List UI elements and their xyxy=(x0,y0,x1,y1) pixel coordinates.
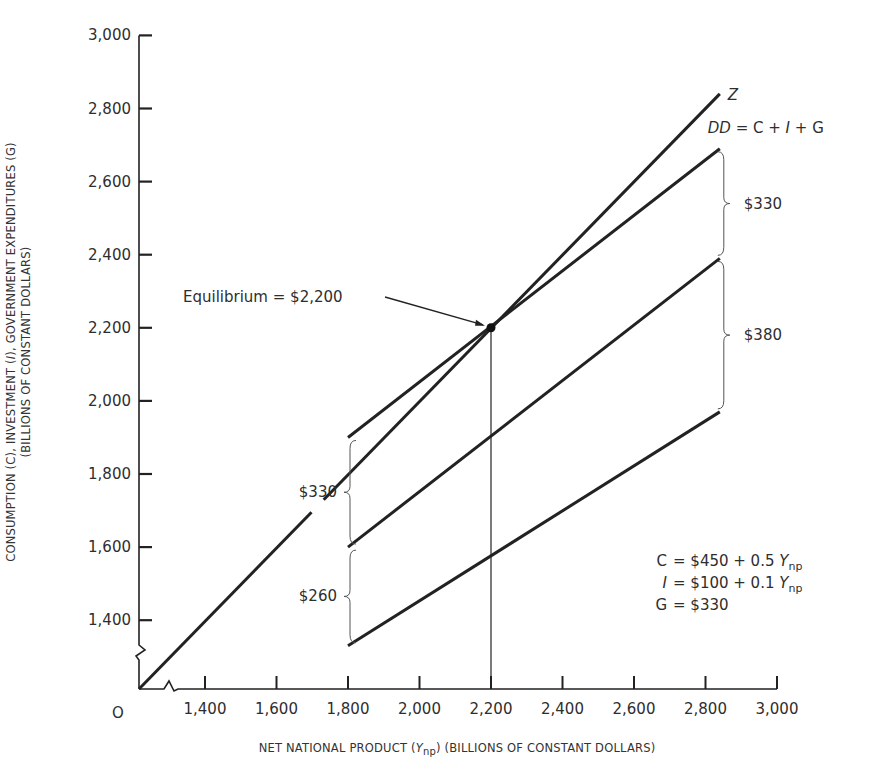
x-tick-label: 1,800 xyxy=(327,700,370,718)
bracket-label: $380 xyxy=(744,326,782,344)
bracket-label: $330 xyxy=(744,195,782,213)
bracket-label: $330 xyxy=(299,483,337,501)
x-tick-label: 2,200 xyxy=(470,700,513,718)
z-line-label: Z xyxy=(727,86,739,104)
arrowhead-icon xyxy=(475,320,485,326)
z-line xyxy=(324,94,720,500)
equation-rhs: = $450 + 0.5 Ynp xyxy=(673,552,802,573)
equilibrium-point xyxy=(487,323,496,332)
plot-lines xyxy=(139,94,720,689)
equation-rhs: = $100 + 0.1 Ynp xyxy=(673,574,802,595)
origin-label: O xyxy=(112,704,124,722)
x-axis-line xyxy=(139,681,777,691)
keynesian-cross-chart: 1,4001,6001,8002,0002,2002,4002,6002,800… xyxy=(0,0,870,779)
equation-lhs: G xyxy=(655,596,667,614)
y-axis-title: CONSUMPTION (C), INVESTMENT (I), GOVERNM… xyxy=(4,142,33,562)
brace-icon xyxy=(344,440,356,544)
x-tick-label: 3,000 xyxy=(756,700,799,718)
x-tick-label: 2,600 xyxy=(613,700,656,718)
y-axis-line xyxy=(136,35,145,689)
x-axis-title-a: NET NATIONAL PRODUCT ( xyxy=(259,741,416,755)
x-tick-label: 1,400 xyxy=(184,700,227,718)
equation-lhs: I xyxy=(663,574,668,592)
x-tick-label: 2,800 xyxy=(684,700,727,718)
dd-line-label: DD = C + I + G xyxy=(708,119,824,137)
brace-icon xyxy=(718,152,730,256)
bracket-label: $260 xyxy=(299,587,337,605)
y-tick-label: 2,000 xyxy=(88,392,131,410)
y-tick-label: 2,200 xyxy=(88,319,131,337)
y-tick-label: 1,800 xyxy=(88,465,131,483)
x-tick-label: 1,600 xyxy=(255,700,298,718)
svg-text:(BILLIONS OF CONSTANT DOLLARS): (BILLIONS OF CONSTANT DOLLARS) xyxy=(19,247,33,458)
equilibrium-label: Equilibrium = $2,200 xyxy=(183,288,343,306)
brace-icon xyxy=(344,550,356,643)
axis-ticks: 1,4001,6001,8002,0002,2002,4002,6002,800… xyxy=(88,26,798,718)
y-tick-label: 1,600 xyxy=(88,538,131,556)
y-tick-label: 2,600 xyxy=(88,173,131,191)
x-tick-label: 2,000 xyxy=(398,700,441,718)
x-axis-title: NET NATIONAL PRODUCT (Ynp) (BILLIONS OF … xyxy=(259,741,656,757)
y-tick-label: 2,400 xyxy=(88,246,131,264)
svg-text:CONSUMPTION (C), INVESTMENT (I: CONSUMPTION (C), INVESTMENT (I), GOVERNM… xyxy=(4,142,18,562)
y-tick-label: 3,000 xyxy=(88,26,131,44)
y-tick-label: 2,800 xyxy=(88,100,131,118)
equation-rhs: = $330 xyxy=(673,596,729,614)
x-tick-label: 2,400 xyxy=(541,700,584,718)
equilibrium-arrow xyxy=(385,297,483,325)
dd-line xyxy=(348,149,720,438)
brace-icon xyxy=(718,261,730,409)
z-line-segment xyxy=(139,512,311,689)
y-tick-label: 1,400 xyxy=(88,611,131,629)
annotations: ZDD = C + I + GEquilibrium = $2,200C= $4… xyxy=(183,86,824,614)
equation-lhs: C xyxy=(657,552,667,570)
